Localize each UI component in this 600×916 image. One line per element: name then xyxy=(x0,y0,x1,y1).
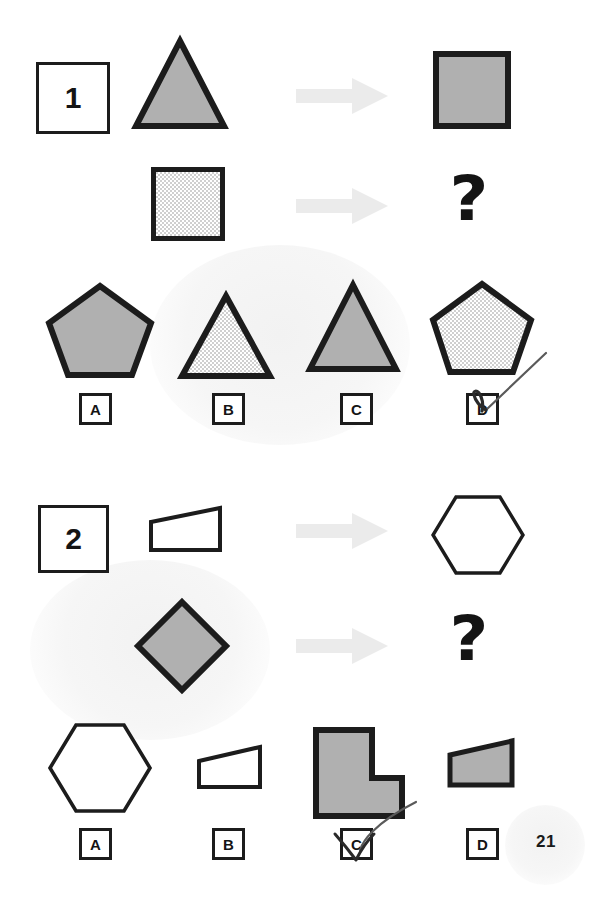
option-label-box-d-p2[interactable]: D xyxy=(466,828,499,860)
worksheet-page: 1 xyxy=(0,0,600,916)
option-letter-a-p2: A xyxy=(90,837,101,852)
option-shape-b-p2[interactable] xyxy=(196,744,264,792)
shape-diamond-gray-p2 xyxy=(134,598,230,694)
option-label-box-b-p2[interactable]: B xyxy=(212,828,245,860)
page-number-text: 21 xyxy=(536,832,556,851)
option-letter-d-p2: D xyxy=(477,837,488,852)
right-arrow-icon-p2-r1 xyxy=(296,513,388,549)
puzzle-number-box-2: 2 xyxy=(38,505,109,573)
option-shape-d-p2[interactable] xyxy=(446,737,518,791)
right-arrow-icon-p2-r2 xyxy=(296,628,388,664)
handwritten-selection-mark-p2 xyxy=(330,800,420,868)
option-label-box-a-p2[interactable]: A xyxy=(79,828,112,860)
question-mark-glyph-p2: ? xyxy=(450,602,489,675)
option-letter-b-p2: B xyxy=(223,837,234,852)
shape-hexagon-white-p2 xyxy=(430,494,526,576)
shape-trapezoid-white-p2 xyxy=(148,505,224,555)
puzzle-2: 2 xyxy=(0,0,600,916)
puzzle-number-2: 2 xyxy=(65,524,82,554)
page-number: 21 xyxy=(536,832,556,852)
question-mark-p2: ? xyxy=(450,608,515,684)
option-shape-a-p2[interactable] xyxy=(46,721,154,815)
